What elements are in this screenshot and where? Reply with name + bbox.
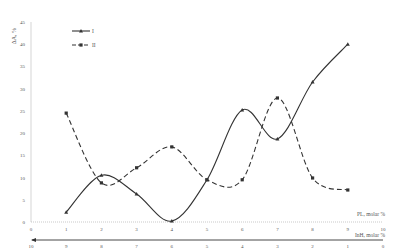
y-axis: 051015202530354045 (20, 20, 31, 225)
x-tick-label: 2 (100, 227, 103, 232)
x-tick-label: 3 (135, 227, 138, 232)
x2-tick-label: 9 (65, 244, 68, 249)
x2-tick-label: 5 (206, 244, 209, 249)
x-axis-secondary-title: InH, molar % (355, 232, 386, 238)
x2-tick-label: 2 (311, 244, 314, 249)
square-marker (276, 96, 279, 99)
y-tick-label: 40 (20, 42, 26, 47)
y-tick-label: 20 (20, 131, 26, 136)
x2-tick-label: 7 (135, 244, 138, 249)
y-tick-label: 45 (20, 20, 26, 25)
legend-item: II (72, 42, 96, 48)
square-marker (100, 181, 103, 184)
x-tick-label: 8 (311, 227, 314, 232)
x2-tick-label: 4 (241, 244, 244, 249)
x2-tick-label: 8 (100, 244, 103, 249)
x2-tick-label: 0 (382, 244, 385, 249)
square-marker (311, 176, 314, 179)
series-group (64, 42, 350, 222)
series-I (64, 42, 350, 222)
y-tick-label: 15 (20, 153, 26, 158)
y-tick-label: 35 (20, 64, 26, 69)
legend-item: I (72, 28, 94, 34)
square-marker (65, 112, 68, 115)
x2-tick-label: 10 (29, 244, 35, 249)
x-tick-label: 4 (171, 227, 174, 232)
x-tick-label: 6 (241, 227, 244, 232)
x-tick-label: 7 (276, 227, 279, 232)
svg-text:ΔA, %: ΔA, % (11, 28, 17, 44)
series-II (65, 96, 350, 191)
arrow-left-icon (31, 238, 36, 242)
y-tick-label: 0 (23, 220, 26, 225)
legend: III (72, 28, 96, 48)
square-marker (346, 188, 349, 191)
x2-tick-label: 3 (276, 244, 279, 249)
square-marker (79, 43, 82, 46)
x-tick-label: 5 (206, 227, 209, 232)
y-axis-title: ΔA, % (11, 28, 17, 44)
triangle-marker (346, 42, 350, 46)
legend-label: I (92, 28, 94, 34)
square-marker (205, 178, 208, 181)
y-tick-label: 25 (20, 109, 26, 114)
x-axis-title: PL, molar % (357, 211, 385, 217)
y-tick-label: 5 (23, 198, 26, 203)
y-tick-label: 30 (20, 87, 26, 92)
x-axis-pl: 012345678910 (30, 222, 386, 232)
x2-tick-label: 6 (171, 244, 174, 249)
legend-label: II (92, 42, 96, 48)
x-axis-inh: 109876543210 (29, 238, 385, 249)
square-marker (241, 178, 244, 181)
y-tick-label: 10 (20, 176, 26, 181)
square-marker (135, 166, 138, 169)
x-tick-label: 1 (65, 227, 68, 232)
x-tick-label: 9 (347, 227, 350, 232)
square-marker (170, 145, 173, 148)
x2-tick-label: 1 (347, 244, 350, 249)
x-tick-label: 0 (30, 227, 33, 232)
